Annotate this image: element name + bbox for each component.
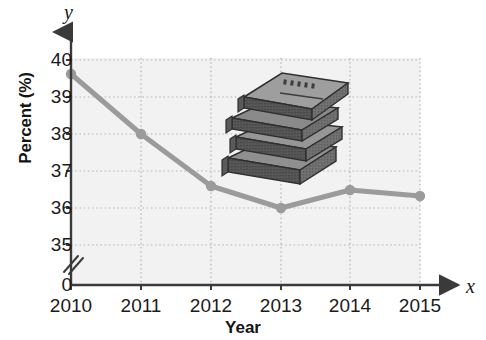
y-tick-label-38: 38 xyxy=(26,124,72,143)
y-tick-label-37: 37 xyxy=(26,161,72,180)
x-axis-letter: x xyxy=(466,276,475,296)
y-tick-label-36: 36 xyxy=(26,198,72,217)
x-tick-label-2014: 2014 xyxy=(313,296,387,315)
data-point-2012 xyxy=(206,181,216,191)
x-tick-label-2015: 2015 xyxy=(383,296,457,315)
data-point-2014 xyxy=(345,185,355,195)
data-point-2015 xyxy=(415,191,425,201)
data-point-2013 xyxy=(276,203,286,213)
x-tick-label-2012: 2012 xyxy=(174,296,248,315)
x-tick-label-2011: 2011 xyxy=(104,296,178,315)
line-chart-figure: y x Percent (%) Year 40 39 38 37 36 35 0… xyxy=(0,0,486,340)
y-axis-letter: y xyxy=(64,2,73,22)
y-tick-label-35: 35 xyxy=(26,235,72,254)
y-tick-label-0: 0 xyxy=(26,275,72,294)
chart-canvas xyxy=(0,0,486,340)
data-point-2011 xyxy=(136,129,146,139)
y-tick-label-40: 40 xyxy=(26,50,72,69)
x-tick-label-2010: 2010 xyxy=(34,296,108,315)
x-axis-title: Year xyxy=(0,318,486,338)
x-tick-label-2013: 2013 xyxy=(244,296,318,315)
y-tick-label-39: 39 xyxy=(26,87,72,106)
